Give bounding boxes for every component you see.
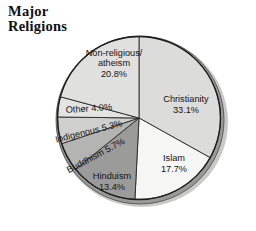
pie-chart-figure: Major Religions Christianity33.1%Islam17… [0,0,256,231]
label-line: 33.1% [173,105,199,115]
label-line: 17.7% [161,164,187,174]
label-line: Hinduism [93,171,132,181]
label-line: Islam [163,153,185,163]
label-line: Non-religious/ [86,48,143,58]
label-line: Christianity [163,94,209,104]
pie-slices-group [58,37,221,200]
pie-slice-label-islam: Islam17.7% [161,153,187,173]
pie-chart-svg: Christianity33.1%Islam17.7%Hinduism13.4%… [0,0,256,231]
label-line: 20.8% [101,69,127,79]
label-line: atheism [98,58,131,68]
label-line: 13.4% [99,182,125,192]
pie-chart-container: Christianity33.1%Islam17.7%Hinduism13.4%… [0,0,256,231]
